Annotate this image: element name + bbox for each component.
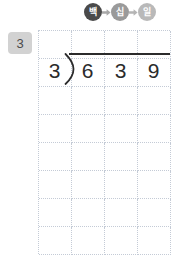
grid-cell[interactable] <box>39 115 72 143</box>
long-division-expression: 3 6 3 9 <box>38 56 170 84</box>
grid-cell[interactable] <box>72 227 105 255</box>
dividend-digit-tens: 3 <box>104 56 137 84</box>
grid-cell[interactable] <box>138 143 171 171</box>
arrow-right-icon <box>102 3 111 21</box>
grid-cell[interactable] <box>105 115 138 143</box>
place-value-badge-row: 백 십 일 <box>84 2 156 22</box>
grid-cell[interactable] <box>39 171 72 199</box>
grid-cell[interactable] <box>39 143 72 171</box>
grid-cell[interactable] <box>138 87 171 115</box>
grid-cell[interactable] <box>105 171 138 199</box>
grid-cell[interactable] <box>39 199 72 227</box>
grid-cell[interactable] <box>39 227 72 255</box>
grid-cell[interactable] <box>72 171 105 199</box>
place-value-badge-hundreds: 백 <box>84 3 102 21</box>
place-value-badge-tens: 십 <box>111 3 129 21</box>
division-vinculum <box>69 53 170 55</box>
dividend-digit-hundreds: 6 <box>71 56 104 84</box>
grid-cell[interactable] <box>39 87 72 115</box>
grid-cell[interactable] <box>105 199 138 227</box>
place-value-badge-ones: 일 <box>138 3 156 21</box>
grid-cell[interactable] <box>138 199 171 227</box>
grid-cell[interactable] <box>105 227 138 255</box>
grid-cell[interactable] <box>72 87 105 115</box>
arrow-right-icon <box>129 3 138 21</box>
grid-cell[interactable] <box>72 199 105 227</box>
grid-cell[interactable] <box>105 87 138 115</box>
grid-cell[interactable] <box>105 143 138 171</box>
step-number-box: 3 <box>8 32 32 54</box>
grid-cell[interactable] <box>138 115 171 143</box>
grid-cell[interactable] <box>138 227 171 255</box>
grid-cell[interactable] <box>72 115 105 143</box>
grid-cell[interactable] <box>72 143 105 171</box>
dividend-digit-ones: 9 <box>137 56 170 84</box>
grid-cell[interactable] <box>138 171 171 199</box>
long-division-worksheet: 백 십 일 3 <box>0 0 178 262</box>
